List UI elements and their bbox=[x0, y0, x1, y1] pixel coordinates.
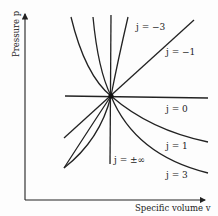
curve-j-neg1 bbox=[64, 20, 194, 138]
y-axis-label: Pressure p bbox=[11, 11, 21, 57]
label-j-1: j = 1 bbox=[166, 141, 188, 151]
polytropic-process-diagram: j = −3 j = −1 j = 0 j = 1 j = ±∞ j = 3 P… bbox=[0, 0, 218, 216]
curve-j-inf bbox=[110, 15, 111, 164]
label-j-neg3: j = −3 bbox=[136, 22, 165, 32]
x-axis-label: Specific volume v bbox=[135, 203, 211, 213]
curve-j-0 bbox=[65, 96, 208, 98]
label-j-0: j = 0 bbox=[166, 104, 188, 114]
label-j-neg1: j = −1 bbox=[166, 47, 195, 57]
intersection-point bbox=[108, 93, 113, 98]
label-j-inf: j = ±∞ bbox=[114, 155, 145, 165]
label-j-3: j = 3 bbox=[166, 170, 188, 180]
